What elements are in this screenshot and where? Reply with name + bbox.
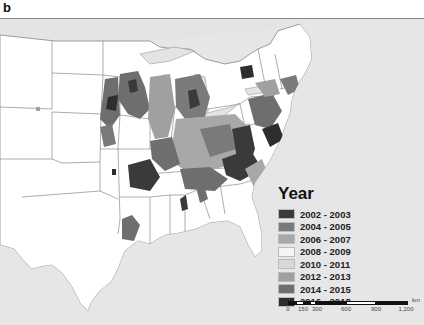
legend-item-2008-2009: 2008 - 2009 xyxy=(278,246,351,259)
legend-label: 2010 - 2011 xyxy=(300,259,350,270)
legend-item-2006-2007: 2006 - 2007 xyxy=(278,233,351,246)
legend-swatch xyxy=(278,209,295,219)
legend-swatch xyxy=(278,284,295,294)
legend-swatch xyxy=(278,272,295,282)
scale-bar: km 0 150 300 600 900 1,200 xyxy=(288,301,410,313)
panel-label: b xyxy=(3,0,11,15)
legend-label: 2006 - 2007 xyxy=(300,234,351,245)
scale-tick: 0 xyxy=(286,306,289,312)
legend: Year 2002 - 2003 2004 - 2005 2006 - 2007… xyxy=(278,184,351,308)
legend-swatch xyxy=(278,234,295,244)
legend-item-2014-2015: 2014 - 2015 xyxy=(278,283,351,296)
legend-label: 2008 - 2009 xyxy=(300,246,351,257)
legend-item-2004-2005: 2004 - 2005 xyxy=(278,221,351,234)
canada-region xyxy=(0,19,300,41)
legend-item-2002-2003: 2002 - 2003 xyxy=(278,208,351,221)
scale-tick: 600 xyxy=(341,306,351,312)
legend-label: 2002 - 2003 xyxy=(300,209,351,220)
scale-tick: 900 xyxy=(371,306,381,312)
scale-tick: 1,200 xyxy=(398,306,413,312)
legend-title: Year xyxy=(278,184,351,204)
map-frame: Year 2002 - 2003 2004 - 2005 2006 - 2007… xyxy=(0,18,424,325)
legend-item-2010-2011: 2010 - 2011 xyxy=(278,258,351,271)
scale-unit: km xyxy=(412,297,420,303)
legend-label: 2004 - 2005 xyxy=(300,221,351,232)
legend-swatch xyxy=(278,222,295,232)
legend-item-2012-2013: 2012 - 2013 xyxy=(278,271,351,284)
scale-tick: 150 xyxy=(298,306,308,312)
legend-label: 2012 - 2013 xyxy=(300,271,351,282)
scale-tick: 300 xyxy=(312,306,322,312)
choropleth-map xyxy=(0,19,424,325)
legend-swatch xyxy=(278,247,295,257)
legend-swatch xyxy=(278,259,295,269)
legend-label: 2014 - 2015 xyxy=(300,284,351,295)
